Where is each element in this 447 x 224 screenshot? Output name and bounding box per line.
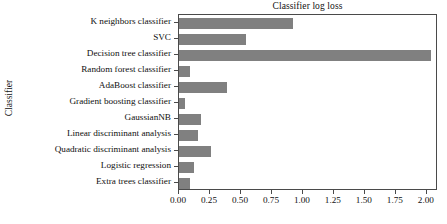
x-tick-mark	[178, 190, 179, 194]
bar-row	[179, 130, 436, 141]
bar-row	[179, 18, 436, 29]
x-tick-label: 0.75	[263, 196, 279, 205]
x-tick-mark	[240, 190, 241, 194]
x-tick-label: 0.50	[232, 196, 248, 205]
x-tick-label: 1.50	[356, 196, 372, 205]
bar	[179, 98, 185, 109]
y-tick-label: Linear discriminant analysis	[67, 129, 171, 138]
y-tick-label: GaussianNB	[125, 113, 171, 122]
x-tick-label: 0.25	[201, 196, 217, 205]
plot-area	[178, 14, 437, 190]
y-tick-label: Decision tree classifier	[87, 49, 171, 58]
bar	[179, 162, 194, 173]
bar-row	[179, 178, 436, 189]
x-tick-mark	[302, 190, 303, 194]
bar-row	[179, 50, 436, 61]
x-tick-label: 1.75	[387, 196, 403, 205]
bar-row	[179, 34, 436, 45]
x-tick-mark	[426, 190, 427, 194]
x-tick-mark	[395, 190, 396, 194]
x-tick-mark	[271, 190, 272, 194]
x-tick-label: 1.25	[325, 196, 341, 205]
y-tick-label: Extra trees classifier	[96, 177, 171, 186]
bar	[179, 146, 211, 157]
y-axis-tick-labels: K neighbors classifierSVCDecision tree c…	[0, 14, 178, 190]
bar	[179, 114, 201, 125]
y-tick-label: AdaBoost classifier	[99, 81, 171, 90]
chart-figure: Classifier log loss Classifier K neighbo…	[0, 0, 447, 224]
bar-row	[179, 82, 436, 93]
bar-row	[179, 162, 436, 173]
bars-layer	[179, 15, 436, 189]
bar-row	[179, 66, 436, 77]
bar-row	[179, 114, 436, 125]
x-axis-ticks: 0.000.250.500.751.001.251.501.752.00	[178, 190, 437, 224]
x-tick-label: 1.00	[294, 196, 310, 205]
y-tick-label: K neighbors classifier	[90, 17, 171, 26]
x-tick-mark	[364, 190, 365, 194]
x-tick-mark	[209, 190, 210, 194]
bar	[179, 130, 198, 141]
x-tick-label: 0.00	[170, 196, 186, 205]
y-tick-label: Logistic regression	[101, 161, 171, 170]
bar-row	[179, 98, 436, 109]
y-tick-label: Quadratic discriminant analysis	[55, 145, 171, 154]
bar	[179, 50, 431, 61]
y-tick-label: Gradient boosting classifier	[69, 97, 171, 106]
bar	[179, 34, 246, 45]
bar	[179, 18, 293, 29]
bar	[179, 66, 190, 77]
bar	[179, 82, 227, 93]
x-tick-mark	[333, 190, 334, 194]
chart-title: Classifier log loss	[178, 1, 437, 11]
bar-row	[179, 146, 436, 157]
y-tick-label: Random forest classifier	[81, 65, 171, 74]
x-tick-label: 2.00	[418, 196, 434, 205]
y-tick-label: SVC	[153, 33, 171, 42]
bar	[179, 178, 190, 189]
